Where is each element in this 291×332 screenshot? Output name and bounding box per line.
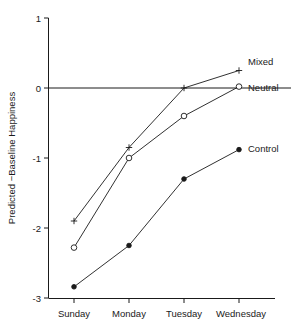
data-point-neutral-sunday — [71, 245, 77, 251]
data-point-neutral-monday — [126, 155, 132, 161]
series-label-mixed: Mixed — [248, 56, 273, 67]
series-label-control: Control — [248, 143, 279, 154]
chart-container: 1 0 -1 -2 -3 Sunday Monday Tuesday Wedne… — [0, 0, 291, 332]
y-axis-title: Predicted −Baseline Happiness — [6, 92, 17, 225]
y-tick-label-1: 1 — [36, 13, 41, 24]
data-point-control-monday — [127, 243, 132, 248]
x-axis-label-sunday: Sunday — [58, 308, 90, 319]
series-markers-control — [72, 147, 242, 289]
data-point-neutral-tuesday — [181, 113, 187, 119]
data-point-mixed-sunday — [71, 218, 77, 224]
data-point-mixed-wednesday — [236, 67, 242, 73]
series-label-neutral: Neutral — [248, 82, 279, 93]
x-axis-label-monday: Monday — [112, 308, 146, 319]
series-markers-neutral — [71, 84, 242, 251]
y-tick-label-minus-2: -2 — [33, 223, 41, 234]
series-line-mixed — [74, 71, 239, 222]
y-tick-label-minus-3: -3 — [33, 293, 41, 304]
y-tick-label-minus-1: -1 — [33, 153, 41, 164]
series-markers-mixed — [71, 67, 242, 224]
x-axis-label-tuesday: Tuesday — [166, 308, 202, 319]
series-line-neutral — [74, 87, 239, 248]
line-chart-plot: 1 0 -1 -2 -3 Sunday Monday Tuesday Wedne… — [0, 0, 291, 332]
y-tick-label-0: 0 — [36, 83, 41, 94]
data-point-neutral-wednesday — [236, 84, 242, 90]
data-point-control-tuesday — [182, 177, 187, 182]
data-point-control-wednesday — [237, 147, 242, 152]
series-line-control — [74, 150, 239, 287]
data-point-control-sunday — [72, 285, 77, 290]
x-axis-label-wednesday: Wednesday — [216, 308, 266, 319]
